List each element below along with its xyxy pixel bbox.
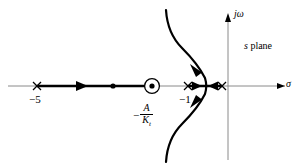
root-locus-figure: σ jω s plane −5 −1 − A Kt: [0, 0, 301, 168]
complex-branch-upper: [166, 10, 206, 86]
fraction-denominator-subscript: t: [149, 120, 151, 128]
zero-label-fraction: − A Kt: [133, 103, 153, 128]
pole-label-minus-five: −5: [29, 94, 41, 105]
fraction-denominator: Kt: [140, 115, 153, 128]
root-locus-plot: [0, 0, 301, 168]
s-plane-word: plane: [248, 40, 272, 51]
jomega-axis-label: jω: [234, 9, 244, 19]
real-axis-direction-arrow-left: [76, 81, 88, 91]
sigma-axis-label: σ: [286, 79, 291, 89]
jomega-axis-arrowhead: [225, 13, 231, 22]
fraction-body: A Kt: [140, 103, 153, 128]
zero-marker-dot: [149, 83, 154, 88]
s-plane-annotation: s plane: [244, 41, 272, 51]
zero-label-minus-sign: −: [133, 110, 140, 121]
fraction-denominator-base: K: [142, 114, 149, 125]
breakaway-dot-left: [110, 83, 115, 88]
fraction-numerator: A: [141, 103, 151, 114]
real-axis-direction-arrow-right-inbound: [192, 82, 202, 91]
sigma-axis-arrowhead: [277, 83, 285, 89]
real-axis-direction-arrow-origin-inbound: [208, 82, 218, 91]
pole-label-minus-one: −1: [179, 94, 191, 105]
